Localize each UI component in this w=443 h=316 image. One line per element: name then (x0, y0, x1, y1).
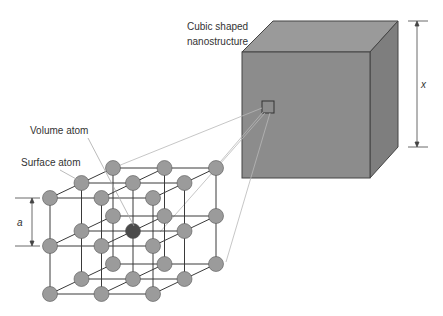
surface-atom (146, 239, 161, 254)
surface-atom (126, 272, 141, 287)
volume-atom-label: Volume atom (30, 125, 88, 136)
surface-atom (157, 209, 172, 224)
diagram-canvas: x a Cubic shaped nanostructure Volume at… (0, 0, 443, 316)
surface-atom (146, 287, 161, 302)
surface-atom-leader (60, 170, 78, 180)
lattice-spacing-label: a (17, 217, 23, 228)
cube-nanostructure (242, 21, 398, 178)
surface-atom (74, 176, 89, 191)
cube-front-face (242, 52, 370, 178)
surface-atom (106, 161, 121, 176)
surface-atom (74, 272, 89, 287)
volume-atom (126, 224, 141, 239)
surface-atom (94, 191, 109, 206)
surface-atom (209, 161, 224, 176)
surface-atom (177, 224, 192, 239)
atomic-lattice (43, 161, 224, 302)
surface-atom (94, 239, 109, 254)
surface-atom (94, 287, 109, 302)
surface-atom (209, 257, 224, 272)
surface-atom (43, 239, 58, 254)
surface-atom (43, 191, 58, 206)
surface-atom (209, 209, 224, 224)
surface-atom (74, 224, 89, 239)
surface-atom (106, 257, 121, 272)
surface-atom (106, 209, 121, 224)
surface-atom (43, 287, 58, 302)
surface-atom (177, 176, 192, 191)
surface-atom (146, 191, 161, 206)
surface-atom (177, 272, 192, 287)
surface-atom (157, 161, 172, 176)
surface-atom (157, 257, 172, 272)
surface-atom (126, 176, 141, 191)
cube-size-label: x (420, 79, 427, 90)
surface-atom-label: Surface atom (21, 157, 80, 168)
cube-label-line2: nanostructure (187, 36, 249, 47)
cube-label-line1: Cubic shaped (187, 21, 248, 32)
